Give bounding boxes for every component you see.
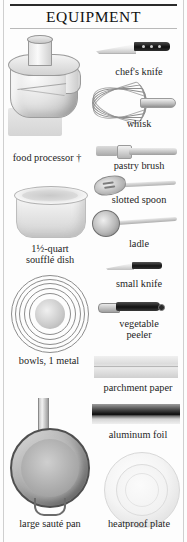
chefs-knife-blade-shape xyxy=(96,44,136,54)
caption-small-knife: small knife xyxy=(92,278,186,289)
heatproof-plate-rim-shape xyxy=(116,464,168,516)
caption-vegetable-peeler: vegetable peeler xyxy=(92,318,186,341)
caption-souffle-dish: 1½-quart soufflé dish xyxy=(4,243,96,266)
ladle-handle-shape xyxy=(115,217,177,225)
pastry-brush-handle-shape xyxy=(129,148,177,155)
caption-heatproof-plate: heatproof plate xyxy=(92,518,186,529)
caption-ladle: ladle xyxy=(92,238,186,249)
slotted-spoon-slot-2 xyxy=(104,185,115,189)
whisk-handle-shape xyxy=(140,98,176,108)
caption-aluminum-foil: aluminum foil xyxy=(90,429,186,440)
caption-saute-pan: large sauté pan xyxy=(2,518,98,529)
caption-pastry-brush: pastry brush xyxy=(92,160,186,171)
small-knife-handle-shape xyxy=(132,262,162,269)
bowl-center-shape xyxy=(35,299,65,329)
parchment-paper-fold-line xyxy=(94,366,178,367)
aluminum-foil-sheet-shape xyxy=(92,404,180,424)
parchment-paper-sheet-shape xyxy=(94,356,178,378)
saute-pan-helper-handle-shape xyxy=(34,498,66,516)
souffle-dish-interior-shape xyxy=(22,190,78,201)
whisk-wires-shape xyxy=(92,88,144,118)
vegetable-peeler-tip-shape xyxy=(158,304,165,311)
page-title: EQUIPMENT xyxy=(8,6,179,27)
header-rule-bottom xyxy=(10,28,177,29)
caption-food-processor: food processor † xyxy=(2,152,92,163)
chefs-knife-rivet-3 xyxy=(158,45,161,48)
caption-whisk: whisk xyxy=(92,118,186,129)
caption-parchment-paper: parchment paper xyxy=(90,382,186,393)
equipment-page: EQUIPMENT food processor † chef's knife … xyxy=(0,0,187,542)
caption-chefs-knife: chef's knife xyxy=(92,66,186,77)
saute-pan-body-shape xyxy=(10,428,90,508)
chefs-knife-rivet-2 xyxy=(150,45,153,48)
chefs-knife-rivet-1 xyxy=(142,45,145,48)
right-margin-rule xyxy=(183,0,184,542)
page-header: EQUIPMENT xyxy=(8,4,179,32)
slotted-spoon-handle-shape xyxy=(120,181,176,188)
caption-slotted-spoon: slotted spoon xyxy=(92,194,186,205)
heatproof-plate-well-shape xyxy=(125,473,159,507)
small-knife-blade-shape xyxy=(106,263,134,270)
slotted-spoon-slot-1 xyxy=(103,181,114,185)
caption-bowls: bowls, 1 metal xyxy=(2,355,96,366)
left-margin-rule xyxy=(3,0,4,542)
ladle-bowl-shape xyxy=(92,210,120,237)
heatproof-plate-body-shape xyxy=(104,452,180,528)
nested-bowls-illustration xyxy=(12,276,88,352)
pastry-brush-bristles-shape xyxy=(96,146,118,156)
vegetable-peeler-handle-shape xyxy=(116,302,160,311)
food-processor-feed-tube-top-shape xyxy=(27,35,53,44)
saute-pan-interior-shape xyxy=(21,439,79,497)
